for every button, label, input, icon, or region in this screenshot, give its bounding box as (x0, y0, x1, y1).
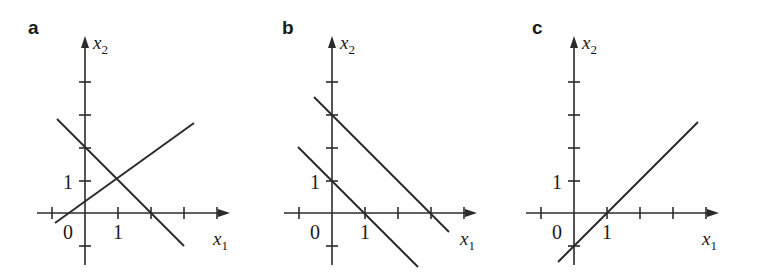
figure-container: a 0 1 1 x2 (0, 0, 762, 274)
y-axis-label: x2 (339, 32, 355, 57)
panel-c: c 0 1 1 x2 x1 (508, 0, 762, 274)
x-axis-label: x1 (212, 228, 228, 253)
x-tick-label-1: 1 (360, 221, 370, 243)
y-tick-label-1: 1 (552, 171, 562, 193)
y-axis-label: x2 (92, 32, 108, 57)
panel-b-plot: 0 1 1 x2 x1 (254, 0, 508, 274)
x-tick-label-1: 1 (602, 221, 612, 243)
x-tick-label-0: 0 (310, 221, 320, 243)
x-axis-arrow-icon (707, 209, 719, 217)
y-tick-label-1: 1 (310, 171, 320, 193)
panel-a: a 0 1 1 x2 (0, 0, 254, 274)
x-axis-label: x1 (459, 228, 475, 253)
x-axis-label: x1 (701, 228, 717, 253)
upper-parallel-line (314, 97, 449, 232)
y-axis-arrow-icon (328, 36, 336, 48)
x-axis-arrow-icon (218, 209, 230, 217)
x-axis-arrow-icon (465, 209, 477, 217)
panel-b: b 0 1 1 x2 x1 (254, 0, 508, 274)
panel-c-plot: 0 1 1 x2 x1 (508, 0, 762, 274)
y-axis-arrow-icon (570, 36, 578, 48)
x-tick-label-0: 0 (552, 221, 562, 243)
y-tick-label-1: 1 (63, 171, 73, 193)
y-axis-arrow-icon (81, 36, 89, 48)
lower-parallel-line (298, 147, 418, 267)
y-axis-label: x2 (581, 32, 597, 57)
coincident-line (558, 122, 698, 262)
x-tick-label-1: 1 (113, 221, 123, 243)
panel-a-plot: 0 1 1 x2 x1 (0, 0, 254, 274)
x-tick-label-0: 0 (63, 221, 73, 243)
